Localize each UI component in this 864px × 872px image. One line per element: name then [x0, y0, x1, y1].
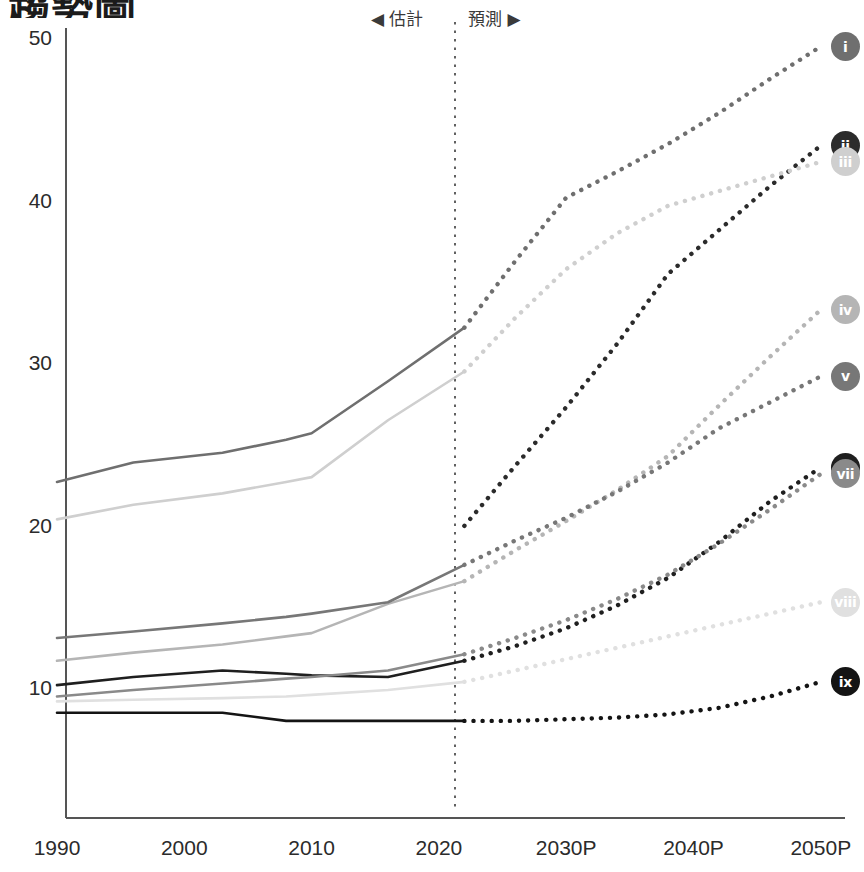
x-tick-label-2030P: 2030P [521, 836, 611, 860]
series-iv-forecast-line [464, 310, 820, 581]
series-i [57, 47, 821, 483]
series-vii [57, 474, 821, 697]
series-vi-forecast-line [464, 467, 820, 660]
y-tick-label-30: 30 [4, 351, 52, 375]
series-badge-ix[interactable]: ix [831, 667, 860, 696]
series-i-history-line [57, 328, 464, 482]
series-badge-iii[interactable]: iii [831, 147, 860, 176]
y-tick-label-10: 10 [4, 676, 52, 700]
series-badge-vii[interactable]: vii [831, 459, 860, 488]
y-tick-label-40: 40 [4, 189, 52, 213]
series-badge-iv[interactable]: iv [831, 295, 860, 324]
y-tick-label-20: 20 [4, 514, 52, 538]
series-viii-forecast-line [464, 602, 820, 682]
series-iv [57, 310, 821, 661]
series-badge-viii[interactable]: viii [831, 588, 860, 617]
series-iii [57, 162, 821, 520]
series-badge-v[interactable]: v [831, 362, 860, 391]
series-ix-history-line [57, 713, 464, 721]
series-ii-forecast-line [464, 146, 820, 526]
x-tick-label-1990: 1990 [12, 836, 102, 860]
series-iv-history-line [57, 581, 464, 661]
series-v [57, 376, 821, 638]
series-v-history-line [57, 565, 464, 638]
x-tick-label-2040P: 2040P [649, 836, 739, 860]
series-layer [57, 47, 821, 721]
series-ii [464, 146, 820, 526]
series-ix-forecast-line [464, 682, 820, 721]
x-tick-label-2010: 2010 [267, 836, 357, 860]
series-badge-i[interactable]: i [831, 32, 860, 61]
y-tick-label-50: 50 [4, 26, 52, 50]
x-tick-label-2020: 2020 [394, 836, 484, 860]
series-iii-forecast-line [464, 162, 820, 372]
x-tick-label-2050P: 2050P [776, 836, 864, 860]
x-tick-label-2000: 2000 [139, 836, 229, 860]
series-vii-history-line [57, 654, 464, 696]
